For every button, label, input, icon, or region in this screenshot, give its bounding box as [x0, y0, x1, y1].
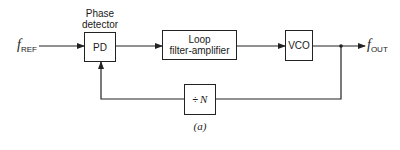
vco-label: VCO: [288, 40, 310, 51]
divide-variable: N: [200, 94, 207, 105]
output-signal-label: fOUT: [367, 37, 388, 54]
feedback-path-left: [101, 62, 184, 99]
phase-detector-block: PD: [84, 32, 116, 62]
divide-symbol: ÷: [193, 94, 199, 105]
pd-title-line2: detector: [82, 19, 118, 30]
loop-filter-block: Loop filter-amplifier: [162, 30, 237, 60]
loop-filter-line1: Loop: [188, 34, 210, 45]
pd-label: PD: [93, 42, 107, 53]
input-signal-subscript: REF: [21, 45, 37, 54]
input-signal-label: fREF: [17, 37, 37, 54]
loop-filter-line2: filter-amplifier: [169, 45, 229, 56]
pd-title-line1: Phase: [86, 8, 114, 19]
output-signal-subscript: OUT: [371, 45, 388, 54]
divider-block: ÷ N: [184, 84, 216, 115]
figure-caption: (a): [194, 121, 207, 132]
vco-block: VCO: [285, 30, 313, 61]
